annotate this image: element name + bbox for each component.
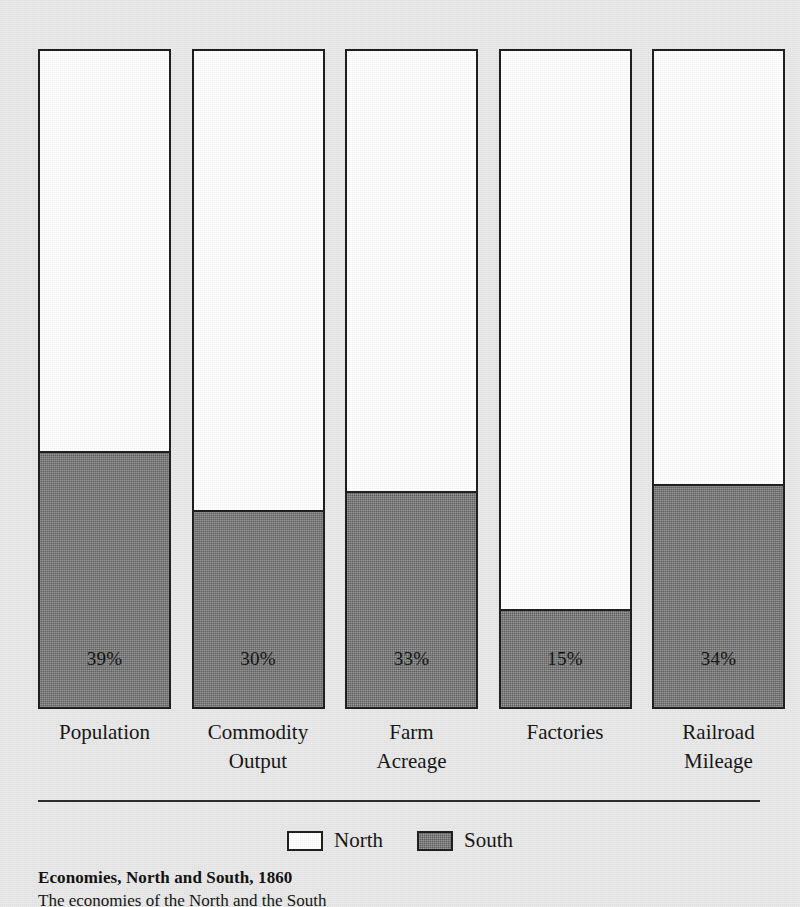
separator-rule — [38, 800, 760, 802]
category-label-line1: Factories — [527, 720, 604, 744]
bar-column-farm-acreage: 33% — [345, 49, 478, 709]
bar-column-population: 39% — [38, 49, 171, 709]
bar-value-label: 15% — [501, 648, 630, 670]
bar-column-factories: 15% — [499, 49, 632, 709]
bar-segment-south: 34% — [654, 484, 783, 707]
category-label-line1: Railroad — [682, 720, 754, 744]
bar-value-label: 30% — [194, 648, 323, 670]
chart-figure: 39% 30% 33% 15% — [0, 0, 800, 907]
bar-segment-south: 15% — [501, 609, 630, 707]
bar-column-railroad-mileage: 34% — [652, 49, 785, 709]
stacked-bar[interactable]: 34% — [652, 49, 785, 709]
category-label-line1: Population — [59, 720, 150, 744]
stacked-bar[interactable]: 15% — [499, 49, 632, 709]
caption-body: The economies of the North and the South — [38, 890, 768, 907]
legend-swatch-north-icon — [287, 831, 323, 851]
caption-title: Economies, North and South, 1860 — [38, 868, 768, 888]
bar-column-commodity-output: 30% — [192, 49, 325, 709]
category-label-factories: Factories — [499, 718, 632, 747]
chart-legend: North South — [0, 828, 800, 853]
plot-area: 39% 30% 33% 15% — [38, 49, 785, 709]
stacked-bar[interactable]: 39% — [38, 49, 171, 709]
bar-value-label: 33% — [347, 648, 476, 670]
category-label-population: Population — [38, 718, 171, 747]
legend-item-north[interactable]: North — [287, 828, 383, 853]
category-label-railroad-mileage: Railroad Mileage — [652, 718, 785, 776]
category-label-line1: Farm — [389, 720, 433, 744]
bar-segment-south: 30% — [194, 510, 323, 707]
category-label-line2: Mileage — [652, 747, 785, 776]
figure-caption: Economies, North and South, 1860 The eco… — [38, 868, 768, 907]
bar-value-label: 34% — [654, 648, 783, 670]
legend-item-south[interactable]: South — [417, 828, 513, 853]
legend-label-north: North — [334, 828, 383, 853]
category-label-line2: Acreage — [345, 747, 478, 776]
category-label-line1: Commodity — [208, 720, 308, 744]
bar-value-label: 39% — [40, 648, 169, 670]
category-label-line2: Output — [192, 747, 325, 776]
stacked-bar[interactable]: 33% — [345, 49, 478, 709]
category-label-farm-acreage: Farm Acreage — [345, 718, 478, 776]
legend-swatch-south-icon — [417, 831, 453, 851]
bar-segment-south: 39% — [40, 451, 169, 707]
category-label-commodity-output: Commodity Output — [192, 718, 325, 776]
stacked-bar[interactable]: 30% — [192, 49, 325, 709]
bar-segment-south: 33% — [347, 491, 476, 707]
legend-label-south: South — [464, 828, 513, 853]
